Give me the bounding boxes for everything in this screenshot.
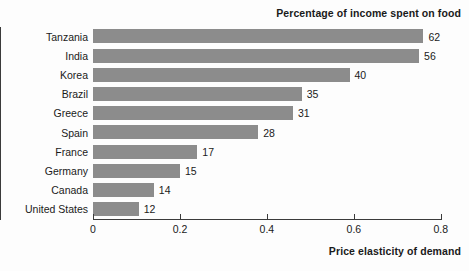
bar bbox=[93, 145, 197, 159]
x-axis-tick-label: 0.4 bbox=[260, 223, 275, 235]
bar-row: Greece31 bbox=[93, 104, 443, 123]
category-label: India bbox=[65, 50, 88, 62]
category-label: Brazil bbox=[62, 88, 88, 100]
category-label: Germany bbox=[45, 165, 88, 177]
category-label: Spain bbox=[61, 127, 88, 139]
x-axis-title: Price elasticity of demand bbox=[329, 245, 461, 257]
bar-row: Spain28 bbox=[93, 123, 443, 142]
bar-value-label: 56 bbox=[424, 50, 436, 62]
x-axis-tick-label: 0.6 bbox=[347, 223, 362, 235]
bar-value-label: 15 bbox=[185, 165, 197, 177]
x-axis-tick bbox=[354, 214, 355, 220]
bar-row: Brazil35 bbox=[93, 85, 443, 104]
bar-value-label: 35 bbox=[307, 88, 319, 100]
x-axis-tick bbox=[180, 214, 181, 220]
bar-value-label: 62 bbox=[428, 31, 440, 43]
bar bbox=[93, 87, 302, 101]
bar-row: Korea40 bbox=[93, 65, 443, 84]
x-axis-tick-label: 0.8 bbox=[434, 223, 449, 235]
x-axis-tick-label: 0.2 bbox=[173, 223, 188, 235]
bar-chart-figure: Percentage of income spent on food Tanza… bbox=[0, 0, 469, 271]
category-label: Tanzania bbox=[46, 31, 88, 43]
bar-value-label: 28 bbox=[263, 127, 275, 139]
bar-row: Tanzania62 bbox=[93, 27, 443, 46]
bar bbox=[93, 106, 293, 120]
bar-value-label: 17 bbox=[202, 146, 214, 158]
bar-value-label: 12 bbox=[144, 203, 156, 215]
bar bbox=[93, 68, 350, 82]
bar-row: France17 bbox=[93, 142, 443, 161]
bar bbox=[93, 29, 423, 43]
category-label: Korea bbox=[60, 69, 88, 81]
category-label: Canada bbox=[51, 184, 88, 196]
plot-area: Tanzania62India56Korea40Brazil35Greece31… bbox=[93, 27, 443, 219]
bar bbox=[93, 202, 139, 216]
bar bbox=[93, 164, 180, 178]
category-label: Greece bbox=[54, 107, 88, 119]
x-axis-tick-label: 0 bbox=[90, 223, 96, 235]
bar-value-label: 31 bbox=[298, 107, 310, 119]
bar bbox=[93, 183, 154, 197]
x-axis-tick bbox=[93, 214, 94, 220]
x-axis-tick bbox=[267, 214, 268, 220]
category-label: France bbox=[55, 146, 88, 158]
bar-row: India56 bbox=[93, 46, 443, 65]
category-label: United States bbox=[25, 203, 88, 215]
bar bbox=[93, 49, 419, 63]
bar bbox=[93, 125, 258, 139]
y-axis-line bbox=[0, 27, 1, 220]
bar-value-label: 14 bbox=[159, 184, 171, 196]
chart-title: Percentage of income spent on food bbox=[276, 7, 461, 19]
bar-row: Germany15 bbox=[93, 161, 443, 180]
bar-row: Canada14 bbox=[93, 181, 443, 200]
x-axis-tick bbox=[441, 214, 442, 220]
bar-value-label: 40 bbox=[355, 69, 367, 81]
